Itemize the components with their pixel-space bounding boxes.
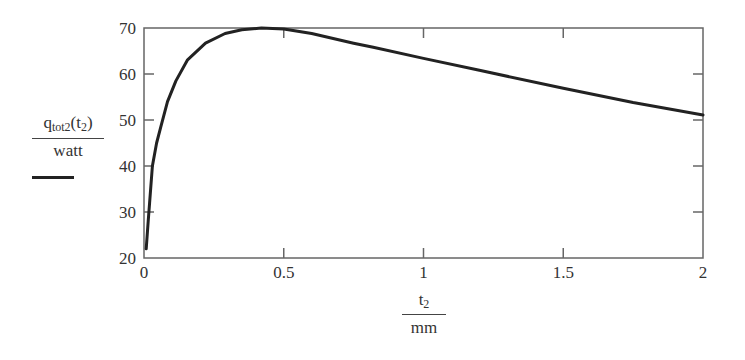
x-tick-label: 0 [140,263,149,282]
x-axis-label-numerator: t2 [394,288,454,312]
y-label-subscript: tot2 [52,120,71,134]
x-tick-label: 2 [699,263,708,282]
x-tick-label: 0.5 [273,263,294,282]
data-series-line [146,28,703,249]
y-axis-label-numerator: qtot2(t2) [28,110,108,136]
y-axis-label-denominator: watt [28,139,108,163]
y-tick-label: 40 [119,157,136,176]
y-tick-label: 30 [119,203,136,222]
plot-border [144,28,703,258]
y-tick-label: 70 [119,19,136,38]
axis-tick-labels: 20304050607000.511.52 [119,19,707,282]
x-axis-label-denominator: mm [394,315,454,339]
x-tick-label: 1.5 [553,263,574,282]
y-tick-label: 60 [119,65,136,84]
legend-line-swatch [32,176,74,179]
y-tick-label: 20 [119,249,136,268]
y-label-arg-close: ) [87,113,93,132]
y-tick-label: 50 [119,111,136,130]
x-label-subscript: 2 [423,297,429,311]
y-axis-label: qtot2(t2) watt [28,110,108,163]
axis-ticks [144,28,703,258]
x-axis-label: t2 mm [394,288,454,339]
x-tick-label: 1 [419,263,428,282]
line-chart: 20304050607000.511.52 [0,0,745,360]
y-label-arg: (t [71,113,81,132]
y-label-symbol: q [43,113,52,132]
plot-frame [144,28,703,258]
